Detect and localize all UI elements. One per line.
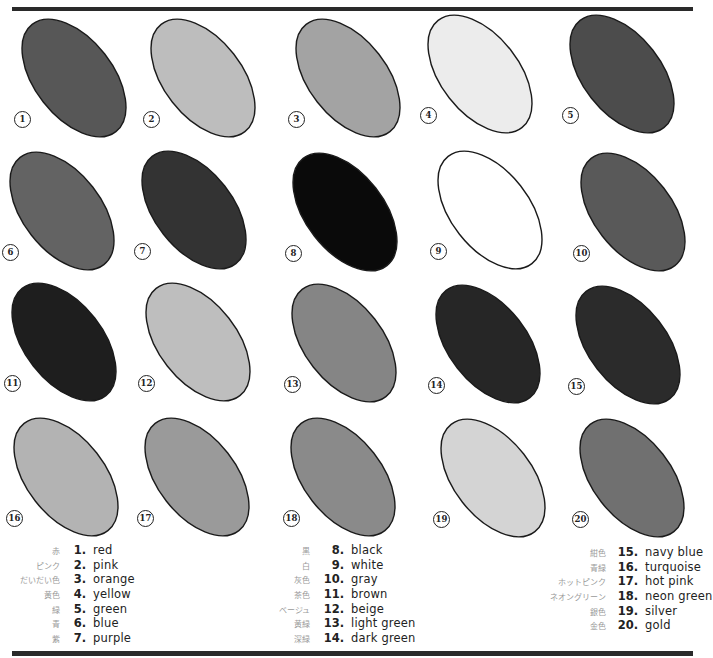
legend-number: 18. bbox=[610, 589, 638, 603]
swatch-number-badge: 15 bbox=[568, 378, 585, 395]
legend-number: 2. bbox=[64, 558, 86, 572]
color-swatch: 8 bbox=[275, 152, 415, 272]
english-label: gray bbox=[351, 572, 378, 586]
top-rule bbox=[12, 7, 693, 11]
legend-row: 灰色10.gray bbox=[262, 572, 416, 587]
japanese-label: 茶色 bbox=[262, 589, 310, 600]
color-swatch: 14 bbox=[418, 284, 558, 404]
color-swatch: 19 bbox=[423, 418, 563, 538]
legend-row: 紺色15.navy blue bbox=[520, 545, 713, 560]
color-swatch: 18 bbox=[273, 417, 413, 537]
color-swatch: 10 bbox=[563, 152, 703, 272]
english-label: black bbox=[351, 543, 383, 557]
english-label: beige bbox=[351, 602, 384, 616]
color-swatch: 6 bbox=[0, 151, 132, 271]
legend-number: 16. bbox=[610, 560, 638, 574]
swatch-number-badge: 2 bbox=[143, 111, 160, 128]
english-label: brown bbox=[351, 587, 388, 601]
color-swatch: 20 bbox=[562, 418, 702, 538]
japanese-label: 黄緑 bbox=[262, 618, 310, 629]
legend-row: ネオングリーン18.neon green bbox=[520, 589, 713, 604]
swatch-number-badge: 14 bbox=[428, 377, 445, 394]
color-swatch: 5 bbox=[552, 14, 692, 134]
japanese-label: ネオングリーン bbox=[520, 591, 606, 602]
color-swatch: 2 bbox=[133, 18, 273, 138]
english-label: neon green bbox=[645, 589, 713, 603]
legend-row: だいだい色3.orange bbox=[0, 572, 135, 587]
japanese-label: ベージュ bbox=[262, 604, 310, 615]
english-label: gold bbox=[645, 618, 671, 632]
english-label: orange bbox=[93, 572, 135, 586]
english-label: light green bbox=[351, 616, 416, 630]
japanese-label: ピンク bbox=[0, 560, 60, 571]
english-label: navy blue bbox=[645, 545, 703, 559]
english-label: white bbox=[351, 558, 383, 572]
english-label: silver bbox=[645, 604, 677, 618]
swatch-number-badge: 10 bbox=[573, 245, 590, 262]
japanese-label: 黄色 bbox=[0, 589, 60, 600]
english-label: blue bbox=[93, 616, 119, 630]
swatch-number-badge: 1 bbox=[14, 111, 31, 128]
legend-number: 6. bbox=[64, 616, 86, 630]
legend-row: 黒8.black bbox=[262, 543, 416, 558]
swatch-number-badge: 6 bbox=[2, 244, 19, 261]
legend-column-2: 黒8.black白9.white灰色10.gray茶色11.brownベージュ1… bbox=[262, 543, 416, 646]
bottom-rule bbox=[12, 651, 693, 656]
color-swatch: 12 bbox=[128, 282, 268, 402]
legend-row: 青緑16.turquoise bbox=[520, 560, 713, 575]
swatch-number-badge: 18 bbox=[283, 510, 300, 527]
legend-number: 10. bbox=[314, 572, 344, 586]
english-label: purple bbox=[93, 631, 131, 645]
english-label: green bbox=[93, 602, 127, 616]
japanese-label: 紫 bbox=[0, 633, 60, 644]
color-swatch: 4 bbox=[410, 14, 550, 134]
english-label: hot pink bbox=[645, 574, 694, 588]
japanese-label: 青 bbox=[0, 618, 60, 629]
japanese-label: 銀色 bbox=[520, 606, 606, 617]
legend-number: 9. bbox=[314, 558, 344, 572]
legend-number: 20. bbox=[610, 618, 638, 632]
swatch-number-badge: 3 bbox=[288, 111, 305, 128]
color-swatch: 13 bbox=[274, 283, 414, 403]
swatch-number-badge: 12 bbox=[138, 375, 155, 392]
japanese-label: だいだい色 bbox=[0, 574, 60, 585]
swatch-number-badge: 7 bbox=[134, 243, 151, 260]
english-label: dark green bbox=[351, 631, 416, 645]
legend-row: 紫7.purple bbox=[0, 631, 135, 646]
swatch-number-badge: 16 bbox=[6, 510, 23, 527]
legend-column-3: 紺色15.navy blue青緑16.turquoiseホットピンク17.hot… bbox=[520, 545, 713, 633]
legend-number: 13. bbox=[314, 616, 344, 630]
legend-number: 11. bbox=[314, 587, 344, 601]
color-swatch: 1 bbox=[4, 18, 144, 138]
legend-row: 赤1.red bbox=[0, 543, 135, 558]
color-swatch: 11 bbox=[0, 282, 134, 402]
legend-number: 14. bbox=[314, 631, 344, 645]
japanese-label: 緑 bbox=[0, 604, 60, 615]
swatch-number-badge: 17 bbox=[137, 510, 154, 527]
japanese-label: 赤 bbox=[0, 545, 60, 556]
color-swatch: 16 bbox=[0, 417, 136, 537]
swatch-number-badge: 9 bbox=[430, 243, 447, 260]
legend-column-1: 赤1.redピンク2.pinkだいだい色3.orange黄色4.yellow緑5… bbox=[0, 543, 135, 646]
english-label: yellow bbox=[93, 587, 131, 601]
legend-number: 19. bbox=[610, 604, 638, 618]
color-swatch: 9 bbox=[420, 150, 560, 270]
legend-row: 白9.white bbox=[262, 558, 416, 573]
legend-number: 1. bbox=[64, 543, 86, 557]
legend-row: 銀色19.silver bbox=[520, 604, 713, 619]
japanese-label: 青緑 bbox=[520, 562, 606, 573]
color-swatch: 3 bbox=[278, 18, 418, 138]
legend-row: ピンク2.pink bbox=[0, 558, 135, 573]
legend-row: 茶色11.brown bbox=[262, 587, 416, 602]
swatch-number-badge: 8 bbox=[285, 245, 302, 262]
color-swatch: 7 bbox=[124, 150, 264, 270]
japanese-label: 金色 bbox=[520, 620, 606, 631]
color-swatch: 17 bbox=[127, 417, 267, 537]
japanese-label: 灰色 bbox=[262, 574, 310, 585]
legend-row: 深緑14.dark green bbox=[262, 631, 416, 646]
legend-number: 17. bbox=[610, 574, 638, 588]
legend-row: 青6.blue bbox=[0, 616, 135, 631]
legend-number: 7. bbox=[64, 631, 86, 645]
swatch-number-badge: 11 bbox=[4, 375, 21, 392]
legend-number: 3. bbox=[64, 572, 86, 586]
